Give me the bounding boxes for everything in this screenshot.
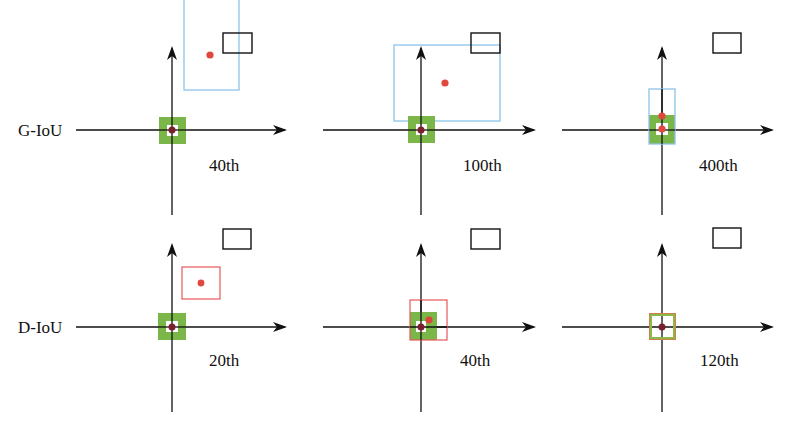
iou-regression-diagram: G-IoU D-IoU 40th 100th <box>0 0 790 436</box>
predicted-center-dot <box>198 280 205 287</box>
target-box <box>713 228 741 248</box>
origin-dot <box>418 127 425 134</box>
target-box <box>471 33 500 53</box>
origin-dot <box>169 324 176 331</box>
predicted-center-dot <box>658 112 665 119</box>
row-label-giou: G-IoU <box>18 121 62 140</box>
target-box <box>223 33 252 53</box>
origin-dot <box>658 125 665 132</box>
iteration-label: 400th <box>699 156 738 175</box>
panel-diou-40th: 40th <box>323 229 534 412</box>
panel-giou-400th: 400th <box>562 33 772 215</box>
iteration-label: 20th <box>209 351 240 370</box>
target-box <box>223 229 251 249</box>
origin-dot <box>418 324 425 331</box>
predicted-center-dot <box>425 316 432 323</box>
iteration-label: 40th <box>460 351 491 370</box>
target-box <box>471 229 500 249</box>
predicted-center-dot <box>441 79 448 86</box>
row-label-diou: D-IoU <box>18 318 62 337</box>
panel-diou-120th: 120th <box>562 228 772 412</box>
iteration-label: 100th <box>463 156 502 175</box>
panel-giou-40th: 40th <box>76 0 285 215</box>
panel-diou-20th: 20th <box>76 229 285 412</box>
iteration-label: 120th <box>700 351 739 370</box>
panel-giou-100th: 100th <box>323 33 534 215</box>
origin-dot <box>169 127 176 134</box>
predicted-center-dot <box>206 51 213 58</box>
origin-dot <box>659 324 666 331</box>
target-box <box>713 33 741 53</box>
iteration-label: 40th <box>209 156 240 175</box>
predicted-box <box>184 0 239 90</box>
